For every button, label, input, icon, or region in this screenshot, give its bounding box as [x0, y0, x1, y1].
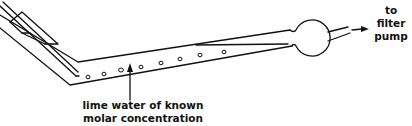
filter-pump-label-line3: pump [370, 30, 412, 43]
lime-water-label-line1: lime water of known [78, 99, 208, 112]
pointer-arrowhead-icon [127, 63, 133, 72]
lime-water-label-line2: molar concentration [78, 112, 208, 125]
apparatus-diagram: lime water of known molar concentration … [0, 0, 412, 126]
stopper [10, 12, 58, 44]
filter-pump-label-line1: to [370, 4, 412, 17]
bulb-trap [290, 20, 330, 56]
bubbles [86, 50, 226, 79]
flow-arrowhead-icon [361, 26, 369, 32]
lime-water-label: lime water of known molar concentration [78, 99, 208, 125]
flow-arrow [352, 29, 362, 30]
filter-pump-label-line2: filter [370, 17, 412, 30]
filter-pump-label: to filter pump [370, 4, 412, 43]
reaction-tube [0, 15, 292, 85]
outlet-tube [328, 27, 350, 41]
